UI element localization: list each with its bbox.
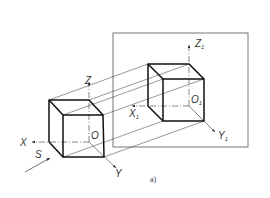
projection-lines <box>49 64 204 157</box>
origin-label: O <box>91 130 99 141</box>
x1-axis-label: X1 <box>128 108 139 120</box>
projection-plane-frame <box>113 33 248 147</box>
x-axis-label: X <box>19 137 27 148</box>
origin1-label: O1 <box>191 94 202 106</box>
projection-direction-arrow <box>25 158 50 172</box>
y-axis-label: Y <box>115 168 123 179</box>
axonometric-projection-diagram: Z X Y O S Z1 X1 Y1 O1 a) <box>0 0 270 198</box>
z-axis-label: Z <box>84 75 92 86</box>
direction-s-label: S <box>35 149 42 160</box>
z1-axis-label: Z1 <box>194 38 204 50</box>
y1-axis-label: Y1 <box>218 130 228 142</box>
figure-caption: a) <box>150 175 157 184</box>
projection-axes <box>132 45 215 132</box>
